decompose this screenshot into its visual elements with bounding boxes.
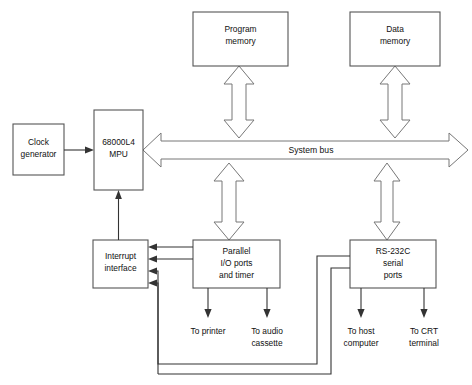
to-audio-arrowhead — [263, 309, 270, 318]
block-diagram: System bus Clock generator 68000L4 MPU P… — [0, 0, 472, 385]
rs232c-label-line2: serial — [383, 258, 403, 268]
to-audio-label-line1: To audio — [251, 326, 283, 336]
program-memory-bus-arrow — [224, 66, 254, 138]
parallel-io-label-line2: I/O ports — [220, 258, 252, 268]
clock-generator-label-line2: generator — [21, 149, 57, 159]
to-crt-label-line2: terminal — [409, 338, 439, 348]
irq-arrowhead-3 — [148, 267, 157, 274]
clock-to-mpu-arrowhead — [85, 146, 94, 153]
to-printer-arrowhead — [204, 309, 211, 318]
diagram-canvas: System bus Clock generator 68000L4 MPU P… — [0, 0, 472, 385]
mpu-label-line1: 68000L4 — [102, 137, 135, 147]
to-crt-arrowhead — [420, 309, 427, 318]
interrupt-to-mpu-arrowhead — [115, 190, 122, 199]
irq-arrowhead-1 — [148, 243, 157, 250]
program-memory-label-line2: memory — [225, 36, 256, 46]
to-host-label-line1: To host — [347, 326, 375, 336]
rs232c-label-line1: RS-232C — [376, 246, 410, 256]
interrupt-interface-label-line2: interface — [104, 263, 136, 273]
to-crt-label-line1: To CRT — [410, 326, 438, 336]
to-audio-label-line2: cassette — [251, 338, 283, 348]
program-memory-label-line1: Program — [224, 24, 256, 34]
system-bus-label: System bus — [289, 145, 334, 155]
rs232c-bus-arrow — [374, 163, 400, 240]
data-memory-bus-arrow — [380, 66, 410, 138]
irq-line-4-riser — [155, 283, 158, 374]
irq-arrowhead-4 — [148, 279, 157, 286]
to-host-label-line2: computer — [344, 338, 379, 348]
to-printer-label-line1: To printer — [191, 326, 226, 336]
parallel-io-label-line1: Parallel — [223, 246, 251, 256]
irq-arrowhead-2 — [148, 255, 157, 262]
parallel-io-label-line3: and timer — [219, 270, 254, 280]
data-memory-label-line2: memory — [380, 36, 411, 46]
mpu-label-line2: MPU — [109, 149, 128, 159]
parallel-io-bus-arrow — [214, 163, 244, 240]
interrupt-interface-label-line1: Interrupt — [105, 251, 137, 261]
clock-generator-label-line1: Clock — [28, 137, 50, 147]
to-host-arrowhead — [357, 309, 364, 318]
data-memory-label-line1: Data — [386, 24, 404, 34]
rs232c-label-line3: ports — [384, 270, 403, 280]
